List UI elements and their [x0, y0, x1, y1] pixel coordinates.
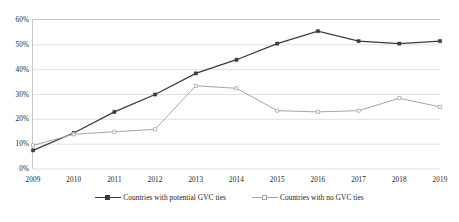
y-axis-tick-label: 30% — [16, 91, 29, 99]
series-layer — [33, 20, 440, 169]
legend-label: Countries with no GVC ties — [280, 193, 364, 202]
x-axis-tick-label: 2013 — [188, 176, 203, 184]
data-point-marker — [276, 109, 279, 112]
data-point-marker — [194, 72, 197, 75]
data-point-marker — [235, 58, 238, 61]
line-chart: 60%50%40%30%20%10%0% 2009201020112012201… — [0, 0, 459, 222]
x-axis-tick-label: 2019 — [433, 176, 448, 184]
legend-item-potential-gvc-ties[interactable]: Countries with potential GVC ties — [95, 193, 226, 202]
data-point-marker — [235, 87, 238, 90]
legend-label: Countries with potential GVC ties — [123, 193, 226, 202]
data-point-marker — [398, 97, 401, 100]
x-axis-tick-label: 2017 — [351, 176, 366, 184]
x-axis-tick-label: 2014 — [229, 176, 244, 184]
data-point-marker — [316, 30, 319, 33]
series-group — [31, 30, 441, 152]
data-point-marker — [438, 40, 441, 43]
x-axis-tick-label: 2010 — [66, 176, 81, 184]
data-point-marker — [154, 128, 157, 131]
x-axis-tick-label: 2016 — [311, 176, 326, 184]
x-axis-tick-label: 2012 — [148, 176, 163, 184]
y-axis-tick-label: 10% — [16, 140, 29, 148]
data-point-marker — [31, 144, 34, 147]
data-point-marker — [398, 42, 401, 45]
x-axis-tick-label: 2018 — [392, 176, 407, 184]
data-point-marker — [113, 110, 116, 113]
data-point-marker — [31, 149, 34, 152]
y-axis-tick-label: 60% — [16, 16, 29, 24]
legend-swatch-icon — [95, 193, 121, 202]
x-axis-tick-label: 2009 — [26, 176, 41, 184]
data-point-marker — [154, 93, 157, 96]
y-axis-tick-label: 20% — [16, 115, 29, 123]
data-point-marker — [357, 40, 360, 43]
chart-legend: Countries with potential GVC ties Countr… — [0, 193, 459, 202]
y-axis-tick-label: 50% — [16, 41, 29, 49]
x-axis-tick-label: 2011 — [107, 176, 122, 184]
data-point-marker — [316, 110, 319, 113]
y-axis-tick-label: 0% — [19, 165, 29, 173]
data-point-marker — [113, 130, 116, 133]
legend-item-no-gvc-ties[interactable]: Countries with no GVC ties — [252, 193, 364, 202]
y-axis-tick-label: 40% — [16, 66, 29, 74]
data-point-marker — [72, 133, 75, 136]
legend-swatch-icon — [252, 193, 278, 202]
data-point-marker — [194, 84, 197, 87]
x-axis-tick-label: 2015 — [270, 176, 285, 184]
plot-area: 60%50%40%30%20%10%0% 2009201020112012201… — [32, 19, 440, 169]
gridlines-group — [33, 45, 440, 169]
data-point-marker — [357, 109, 360, 112]
data-point-marker — [276, 42, 279, 45]
data-point-marker — [438, 105, 441, 108]
